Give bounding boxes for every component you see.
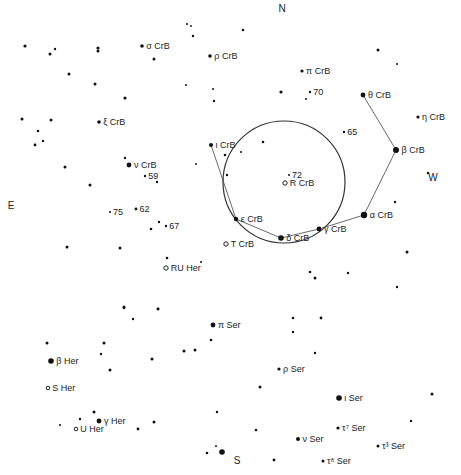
star-label: π CrB: [306, 66, 330, 76]
star-label: η CrB: [422, 112, 445, 122]
star-marker: [322, 460, 325, 463]
asterism-lines: [211, 95, 396, 238]
star-xi-crb: ξ CrB: [97, 117, 125, 127]
star-67: 67: [165, 221, 179, 231]
field-star: [305, 98, 307, 100]
field-star: [100, 353, 102, 355]
star-number-label: 70: [313, 87, 323, 97]
field-star: [158, 221, 160, 223]
star-nu-ser: ν Ser: [296, 434, 324, 444]
star-label: U Her: [80, 424, 104, 434]
direction-west: W: [428, 172, 438, 183]
variable-star-marker: [224, 242, 228, 246]
field-star: [206, 452, 209, 455]
field-star: [185, 84, 187, 86]
star-label: β CrB: [402, 145, 425, 155]
asterism-line-theta-crb-beta-crb: [363, 95, 396, 150]
star-delta-crb: δ CrB: [278, 233, 309, 243]
field-star: [79, 418, 81, 420]
variable-star-marker: [46, 386, 50, 390]
star-marker: [278, 235, 284, 241]
field-star: [292, 331, 294, 333]
star-label: τ³ Ser: [382, 441, 405, 451]
field-star: [396, 286, 398, 288]
star-marker: [209, 143, 213, 147]
field-star: [46, 342, 49, 345]
variable-star-marker: [164, 266, 168, 270]
field-star: [224, 154, 227, 157]
field-star: [192, 35, 194, 37]
star-marker: [144, 175, 146, 177]
field-star: [259, 386, 262, 389]
field-star: [166, 257, 169, 260]
star-marker: [336, 426, 339, 429]
field-star: [66, 246, 69, 249]
field-star: [194, 349, 197, 352]
star-number-label: 72: [292, 170, 302, 180]
field-star: [394, 201, 396, 203]
field-star: [23, 44, 26, 47]
star-marker: [296, 437, 300, 441]
field-star: [320, 317, 323, 320]
star-label: δ CrB: [286, 233, 309, 243]
field-star: [93, 411, 96, 414]
star-nu-crb: ν CrB: [127, 160, 157, 170]
star-label: ξ CrB: [103, 117, 125, 127]
field-star: [89, 184, 92, 187]
field-star: [377, 49, 380, 52]
star-75: 75: [109, 207, 123, 217]
star-label: RU Her: [171, 263, 201, 273]
field-star: [119, 247, 122, 250]
star-marker: [361, 93, 366, 98]
field-star: [396, 63, 398, 65]
star-marker: [416, 115, 419, 118]
star-iota-crb: ι CrB: [209, 140, 236, 150]
field-star: [137, 428, 140, 431]
field-star: [124, 157, 126, 159]
star-marker: [317, 227, 322, 232]
star-sigma-crb: σ CrB: [140, 41, 170, 51]
compass-directions: NSEW: [8, 3, 439, 466]
field-star: [42, 140, 44, 142]
star-marker: [309, 91, 311, 93]
star-59: 59: [144, 171, 158, 181]
star-number-label: 67: [169, 221, 179, 231]
field-star: [123, 307, 126, 310]
field-star: [195, 163, 197, 165]
field-star: [153, 58, 156, 61]
star-label: ε CrB: [241, 214, 263, 224]
star-u-her: U Her: [74, 424, 104, 434]
star-number-label: 75: [113, 207, 123, 217]
star-marker: [208, 54, 212, 58]
star-marker: [361, 212, 367, 218]
star-label: T CrB: [231, 239, 254, 249]
star-iota-ser: ι Ser: [336, 393, 363, 403]
star-eta-crb: η CrB: [416, 112, 445, 122]
star-marker: [288, 174, 290, 176]
field-star: [226, 174, 228, 176]
field-star: [190, 25, 192, 27]
field-star: [240, 151, 242, 153]
field-star: [34, 144, 37, 147]
star-number-label: 59: [148, 171, 158, 181]
star-marker: [140, 44, 144, 48]
field-star: [64, 166, 67, 169]
field-star: [242, 29, 245, 32]
star-tau8-ser: τ⁸ Ser: [322, 456, 351, 466]
field-star: [255, 429, 258, 432]
field-star: [219, 449, 225, 455]
direction-south: S: [234, 455, 241, 466]
asterism-line-beta-crb-alpha-crb: [364, 150, 396, 215]
field-star: [97, 50, 100, 53]
field-star: [347, 272, 349, 274]
star-marker: [97, 120, 101, 124]
field-star: [183, 350, 186, 353]
star-beta-crb: β CrB: [393, 145, 425, 155]
star-marker: [277, 367, 280, 370]
star-tau3-ser: τ³ Ser: [377, 441, 406, 451]
field-star: [279, 90, 282, 93]
field-star: [262, 141, 265, 144]
star-label: ρ Ser: [283, 364, 305, 374]
star-label: ν Ser: [303, 434, 324, 444]
field-star: [216, 411, 218, 413]
